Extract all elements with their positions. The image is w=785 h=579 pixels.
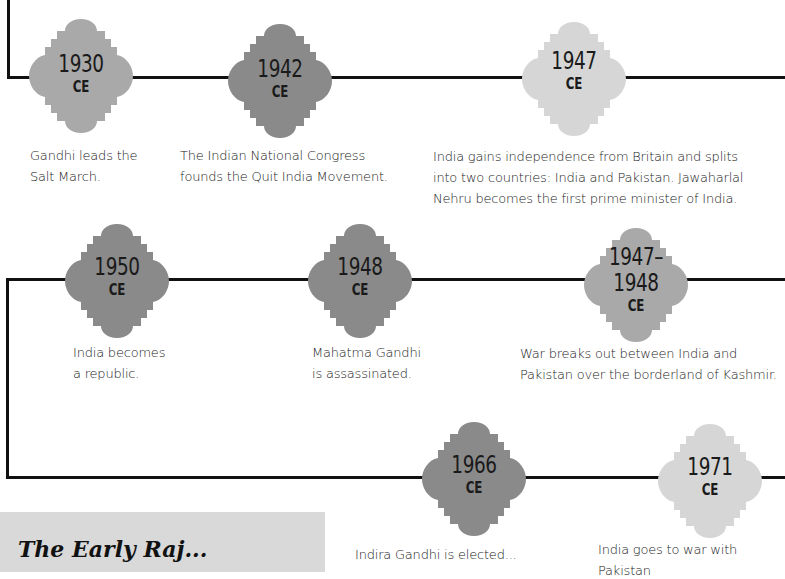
event-badge-1950: 1950 CE (63, 220, 171, 342)
info-box: The Early Raj... (0, 512, 325, 572)
timeline-connector-left-top (7, 0, 10, 78)
event-year: 1966 (430, 452, 519, 478)
event-era: CE (530, 75, 619, 93)
event-badge-1966: 1966 CE (420, 418, 528, 540)
event-year: 1971 (666, 454, 755, 480)
event-caption-1947: India gains independence from Britain an… (433, 146, 743, 209)
event-year: 1930 (37, 51, 126, 77)
event-caption-1948: Mahatma Gandhi is assassinated. (312, 342, 421, 384)
event-year: 1948 (592, 270, 681, 296)
event-era: CE (73, 281, 162, 299)
event-caption-1950: India becomes a republic. (73, 342, 165, 384)
event-badge-1930: 1930 CE (27, 15, 135, 137)
event-era: CE (37, 78, 126, 96)
event-badge-1947: 1947 CE (520, 18, 628, 140)
event-era: CE (236, 83, 325, 101)
event-caption-1971: India goes to war with Pakistan (598, 539, 785, 579)
event-badge-1948: 1948 CE (306, 220, 414, 342)
timeline-connector-left-middle (6, 278, 9, 479)
event-caption-1947-1948: War breaks out between India and Pakista… (520, 343, 777, 385)
event-era: CE (666, 481, 755, 499)
info-box-title: The Early Raj... (18, 536, 207, 562)
event-era: CE (592, 297, 681, 315)
event-era: CE (430, 479, 519, 497)
event-badge-1971: 1971 CE (656, 420, 764, 542)
event-caption-1966: Indira Gandhi is elected... (355, 544, 517, 565)
event-caption-1930: Gandhi leads the Salt March. (30, 145, 137, 187)
event-era: CE (316, 281, 405, 299)
event-year: 1948 (316, 254, 405, 280)
event-badge-1942: 1942 CE (226, 20, 334, 142)
event-year: 1950 (73, 254, 162, 280)
event-caption-1942: The Indian National Congress founds the … (180, 145, 388, 187)
event-badge-1947-1948: 1947– 1948 CE (582, 224, 690, 346)
event-year: 1947 (530, 48, 619, 74)
event-year: 1942 (236, 56, 325, 82)
event-year-start: 1947– (592, 244, 681, 270)
